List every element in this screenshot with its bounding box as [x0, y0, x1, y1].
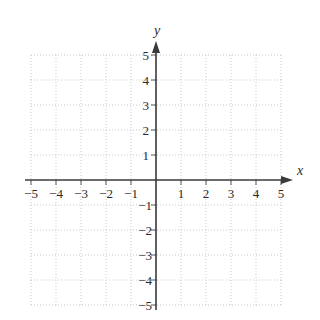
y-tick-label-neg1: −1	[138, 199, 152, 212]
y-tick-label-4: 4	[143, 74, 150, 87]
coordinate-plane-figure: x y −5 −4 −3 −2 −1 1 2 3 4 5 5 4 3 2 1 −…	[0, 0, 320, 320]
x-tick-label-4: 4	[253, 187, 260, 200]
y-tick-label-1: 1	[143, 149, 150, 162]
x-tick-label-neg5: −5	[24, 187, 38, 200]
x-tick-label-neg4: −4	[49, 187, 63, 200]
y-tick-label-neg4: −4	[138, 274, 152, 287]
x-tick-label-neg2: −2	[99, 187, 113, 200]
x-axis-name-label: x	[297, 164, 303, 178]
x-tick-label-neg1: −1	[124, 187, 138, 200]
x-tick-label-5: 5	[278, 187, 285, 200]
y-axis-name-label: y	[154, 24, 160, 38]
x-tick-label-3: 3	[228, 187, 235, 200]
x-tick-label-neg3: −3	[74, 187, 88, 200]
y-tick-label-neg2: −2	[138, 224, 152, 237]
coordinate-plane-graphic	[0, 0, 320, 320]
x-tick-label-1: 1	[178, 187, 185, 200]
y-axis-arrowhead	[152, 41, 160, 53]
x-tick-label-2: 2	[203, 187, 210, 200]
x-axis-arrowhead	[281, 176, 293, 184]
y-tick-label-neg5: −5	[138, 299, 152, 312]
y-tick-label-3: 3	[143, 99, 150, 112]
y-tick-label-2: 2	[143, 124, 150, 137]
y-tick-label-5: 5	[143, 49, 150, 62]
y-tick-label-neg3: −3	[138, 249, 152, 262]
